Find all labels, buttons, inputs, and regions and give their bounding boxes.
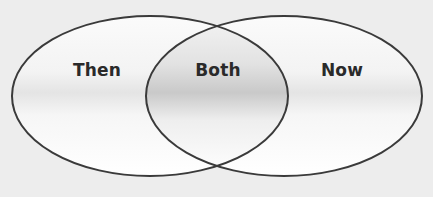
set-then-label: Then [73,60,121,80]
venn-diagram: Then Both Now [0,0,433,197]
set-both-label: Both [195,60,241,80]
venn-shapes [0,0,433,197]
set-now-label: Now [321,60,363,80]
